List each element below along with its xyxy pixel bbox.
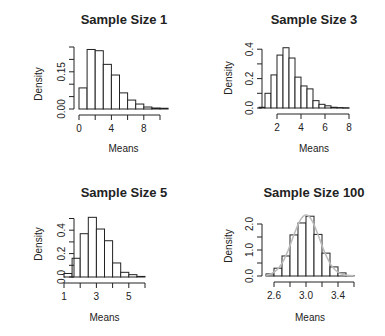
histogram-bar	[96, 229, 104, 277]
y-tick-label: 0.0	[244, 269, 255, 283]
histogram-bars	[79, 49, 168, 109]
histogram-bar	[295, 77, 301, 108]
panel-sample-size-3: Sample Size 3 0.00.20.4 2468 Density Mea…	[223, 12, 357, 154]
histogram-bar	[111, 75, 119, 109]
histogram-bar	[113, 263, 121, 277]
x-tick-label: 2	[274, 122, 280, 133]
x-tick-label: 4	[298, 122, 304, 133]
x-tick-label: 3	[94, 291, 100, 302]
x-axis-label: Means	[299, 143, 329, 154]
x-axis: 135	[61, 283, 145, 302]
y-tick-label: 2.0	[244, 217, 255, 231]
histogram-bar	[289, 58, 295, 108]
x-axis: 2.63.03.4	[267, 282, 354, 301]
chart-title: Sample Size 3	[271, 12, 358, 27]
y-axis-label: Density	[223, 61, 234, 94]
x-axis-label: Means	[89, 312, 119, 323]
y-axis-label: Density	[223, 229, 234, 262]
x-axis-label: Means	[109, 143, 139, 154]
histogram-bar	[103, 64, 111, 109]
histogram-bar	[120, 93, 128, 109]
histogram-bar	[95, 51, 103, 109]
histogram-bar	[136, 104, 144, 109]
histogram-bar	[319, 104, 325, 108]
histogram-bar	[128, 100, 136, 109]
x-tick-label: 2.6	[267, 290, 281, 301]
x-tick-label: 4	[109, 123, 115, 134]
x-tick-label: 6	[322, 122, 328, 133]
histogram-bar	[137, 276, 145, 277]
x-tick-label: 3.4	[331, 290, 345, 301]
histogram-grid: Sample Size 1 0.000.15 048 Density Means…	[0, 0, 385, 336]
histogram-bar	[152, 108, 160, 109]
histogram-bar	[144, 107, 152, 109]
y-tick-label: 0.2	[56, 246, 67, 260]
y-tick-label: 0.4	[56, 223, 67, 237]
histogram-bar	[121, 272, 129, 277]
x-axis: 048	[76, 115, 160, 134]
histogram-bar	[331, 107, 337, 108]
histogram-bar	[325, 106, 331, 108]
histogram-bar	[79, 88, 87, 109]
panel-sample-size-5: Sample Size 5 0.00.20.4 135 Density Mean…	[33, 185, 167, 323]
y-axis: 0.01.02.0	[244, 217, 262, 283]
histogram-bar	[265, 93, 271, 108]
histogram-bars	[259, 48, 349, 108]
histogram-bar	[80, 234, 88, 277]
y-axis: 0.000.15	[56, 47, 74, 119]
x-axis-label: Means	[295, 312, 325, 323]
x-tick-label: 8	[141, 123, 147, 134]
histogram-bar	[313, 101, 319, 108]
x-axis: 2468	[274, 114, 352, 133]
y-tick-label: 0.15	[56, 62, 67, 82]
histogram-bar	[306, 216, 314, 276]
histogram-bar	[337, 108, 343, 109]
chart-title: Sample Size 100	[263, 185, 364, 200]
chart-title: Sample Size 5	[81, 185, 168, 200]
y-tick-label: 0.0	[244, 101, 255, 115]
histogram-bar	[277, 55, 283, 108]
y-tick-label: 0.00	[56, 99, 67, 119]
histogram-bar	[343, 108, 349, 109]
histogram-bars	[64, 217, 145, 277]
histogram-bar	[282, 256, 290, 276]
chart-title: Sample Size 1	[81, 12, 168, 27]
histogram-bar	[72, 258, 80, 277]
y-tick-label: 0.4	[244, 42, 255, 56]
panel-sample-size-1: Sample Size 1 0.000.15 048 Density Means	[33, 12, 168, 154]
x-tick-label: 8	[346, 122, 352, 133]
x-tick-label: 1	[61, 291, 67, 302]
y-tick-label: 0.0	[56, 270, 67, 284]
histogram-bar	[87, 49, 95, 109]
panel-sample-size-100: Sample Size 100 0.01.02.0 2.63.03.4 Dens…	[223, 185, 365, 323]
histogram-bar	[271, 75, 277, 108]
histogram-bar	[160, 108, 168, 109]
histogram-bar	[307, 89, 313, 108]
x-tick-label: 0	[76, 123, 82, 134]
y-axis-label: Density	[33, 67, 44, 100]
x-tick-label: 3.0	[299, 290, 313, 301]
histogram-bar	[129, 275, 137, 277]
histogram-bar	[301, 86, 307, 108]
y-tick-label: 0.2	[244, 71, 255, 85]
histogram-bar	[298, 223, 306, 276]
y-tick-label: 1.0	[244, 243, 255, 257]
y-axis-label: Density	[33, 227, 44, 260]
y-axis: 0.00.20.4	[244, 42, 262, 115]
histogram-bar	[105, 241, 113, 277]
histogram-bar	[283, 48, 289, 108]
histogram-bar	[88, 217, 96, 277]
x-tick-label: 5	[126, 291, 132, 302]
